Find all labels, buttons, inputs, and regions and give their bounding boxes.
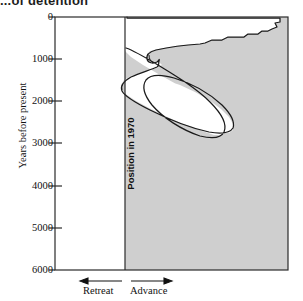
- y-tick-1000: 1000: [17, 53, 53, 64]
- y-axis-tick-labels: 0 1000 2000 3000 4000 5000 6000: [8, 0, 53, 301]
- y-tick-0: 0: [17, 11, 53, 22]
- reference-line-label: Position in 1970: [125, 102, 136, 206]
- legend-retreat-label: Retreat: [83, 285, 113, 296]
- axis-direction-legend: Retreat Advance: [0, 274, 303, 301]
- y-tick-4000: 4000: [17, 180, 53, 191]
- legend-advance-label: Advance: [130, 285, 167, 296]
- chart-figure: ...of detention: [0, 0, 303, 301]
- y-tick-5000: 5000: [17, 222, 53, 233]
- y-axis-label: Years before present: [17, 71, 28, 181]
